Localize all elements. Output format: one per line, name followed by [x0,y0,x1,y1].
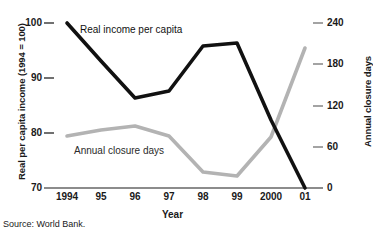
x-tick-98: 98 [185,192,221,202]
x-tick-96: 96 [117,192,153,202]
x-axis-title-text: Year [162,209,183,220]
x-tick-95: 95 [83,192,119,202]
x-tick-1994: 1994 [49,192,85,202]
series-annotation-annual-closure: Annual closure days [74,145,164,156]
source-note: Source: World Bank. [3,219,85,229]
series-line-real-income-per-capita [67,23,305,188]
x-tick-99: 99 [219,192,255,202]
x-tick-97: 97 [151,192,187,202]
x-tick-01: 01 [287,192,323,202]
x-tick-2000: 2000 [253,192,289,202]
series-annotation-real-income: Real income per capita [80,24,182,35]
